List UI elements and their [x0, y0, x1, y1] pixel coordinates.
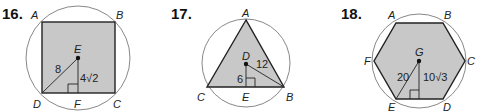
center-point [417, 59, 421, 63]
foot-label: F [74, 98, 82, 110]
center-point [244, 62, 248, 66]
vertex-label-b: B [286, 91, 293, 103]
center-label: E [74, 43, 82, 55]
apothem-label: 4√2 [80, 72, 98, 84]
apothem-label: 10√3 [423, 71, 447, 83]
vertex-label-b: B [116, 9, 123, 21]
figure-17: A B C D E 12 6 [197, 7, 293, 107]
center-label: G [415, 46, 424, 58]
vertex-label-a: A [30, 9, 38, 21]
vertex-label-c: C [113, 98, 121, 110]
figures-canvas: A B C D E F 8 4√2 A B C D E 12 6 A B C D… [0, 0, 477, 111]
radius-label: 8 [55, 63, 61, 75]
radius-label: 12 [256, 58, 268, 70]
center-label: D [242, 50, 250, 62]
radius-label: 20 [397, 71, 409, 83]
figure-18: A B C D E F G 20 10√3 [364, 9, 475, 111]
center-point [76, 56, 80, 60]
vertex-label-f: F [364, 55, 372, 67]
vertex-label-a: A [241, 7, 249, 19]
apothem-label: 6 [237, 73, 243, 85]
vertex-label-b: B [444, 9, 451, 21]
figure-16: A B C D E F 8 4√2 [26, 6, 130, 110]
foot-label: E [242, 91, 250, 103]
vertex-label-d: D [33, 98, 41, 110]
vertex-label-c: C [197, 91, 205, 103]
vertex-label-d: D [443, 101, 451, 111]
vertex-label-c: C [467, 55, 475, 67]
vertex-label-e: E [388, 101, 396, 111]
vertex-label-a: A [387, 9, 395, 21]
